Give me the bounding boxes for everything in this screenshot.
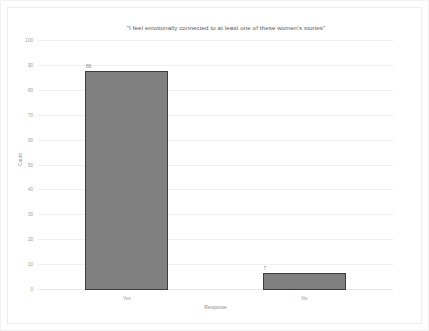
bar[interactable]: 88 bbox=[85, 71, 168, 290]
y-tick-label: 0 bbox=[30, 287, 33, 292]
y-tick-label: 20 bbox=[28, 237, 33, 242]
x-axis-title: Response bbox=[38, 304, 393, 310]
bar[interactable]: 7 bbox=[263, 273, 346, 290]
y-tick-label: 40 bbox=[28, 187, 33, 192]
bar-value-label: 88 bbox=[86, 64, 91, 69]
plot-area: 010203040506070809010088Yes7No bbox=[38, 41, 393, 290]
y-tick-label: 30 bbox=[28, 212, 33, 217]
bar-group[interactable]: 88Yes bbox=[85, 71, 168, 290]
chart-figure: "I feel emotionally connected to at leas… bbox=[0, 0, 429, 331]
y-tick-label: 50 bbox=[28, 162, 33, 167]
y-tick-label: 70 bbox=[28, 112, 33, 117]
bar-value-label: 7 bbox=[264, 266, 267, 271]
chart-title: "I feel emotionally connected to at leas… bbox=[41, 24, 411, 31]
gridline: 90 bbox=[38, 65, 393, 66]
y-tick-label: 90 bbox=[28, 62, 33, 67]
x-tick-label: Yes bbox=[123, 296, 131, 301]
gridline: 100 bbox=[38, 40, 393, 41]
y-tick-label: 60 bbox=[28, 137, 33, 142]
y-axis-title: Count bbox=[18, 153, 23, 166]
y-tick-label: 80 bbox=[28, 87, 33, 92]
y-tick-label: 10 bbox=[28, 262, 33, 267]
bar-group[interactable]: 7No bbox=[263, 273, 346, 290]
x-tick-label: No bbox=[301, 296, 307, 301]
y-tick-label: 100 bbox=[25, 38, 33, 43]
